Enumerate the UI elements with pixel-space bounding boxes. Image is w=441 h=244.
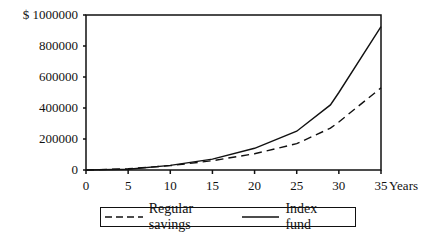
series-regular-savings	[86, 88, 381, 170]
legend-item-index-fund: Index fund	[242, 201, 343, 233]
legend-label: Regular savings	[149, 201, 234, 233]
plot-area: 0200000400000600000800000$ 1000000051015…	[23, 7, 418, 193]
x-tick-label: 0	[83, 178, 90, 193]
x-tick-label: 30	[332, 178, 345, 193]
plot-frame	[86, 15, 381, 170]
series-index-fund	[86, 27, 381, 170]
x-axis-label: Years	[389, 178, 418, 193]
x-tick-label: 10	[164, 178, 177, 193]
x-tick-label: 5	[125, 178, 132, 193]
y-tick-label: 400000	[39, 100, 78, 115]
x-tick-label: 20	[248, 178, 261, 193]
x-tick-label: 35	[375, 178, 388, 193]
x-tick-label: 15	[206, 178, 219, 193]
dashed-line-icon	[105, 212, 143, 222]
y-tick-label: 200000	[39, 131, 78, 146]
y-tick-label: 800000	[39, 38, 78, 53]
legend: Regular savings Index fund	[100, 207, 356, 227]
solid-line-icon	[242, 212, 280, 222]
y-tick-label: 600000	[39, 69, 78, 84]
y-tick-label: 0	[72, 162, 79, 177]
y-tick-label: $ 1000000	[23, 7, 78, 22]
legend-item-regular-savings: Regular savings	[105, 201, 234, 233]
legend-label: Index fund	[285, 201, 343, 233]
x-tick-label: 25	[290, 178, 303, 193]
